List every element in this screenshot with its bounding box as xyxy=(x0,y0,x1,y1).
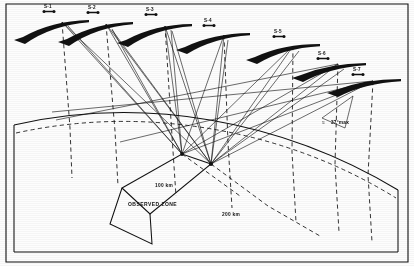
satellite-tick-cap-left-sat-1 xyxy=(43,10,46,13)
max-angle-label: 37°max xyxy=(331,120,349,125)
satellite-tick-cap-right-sat-7 xyxy=(362,73,365,76)
range-outer-label: 200 km xyxy=(222,212,240,217)
satellite-label-sat-4: S-4 xyxy=(204,18,212,23)
satellite-label-sat-2: S-2 xyxy=(88,5,96,10)
satellite-label-sat-5: S-5 xyxy=(274,29,282,34)
zone-far-edge xyxy=(211,164,320,236)
satellite-sat-3: S-3 xyxy=(117,7,192,47)
station-a-node xyxy=(180,152,184,156)
satellite-sat-4: S-4 xyxy=(176,18,250,54)
satellite-tick-cap-left-sat-6 xyxy=(317,57,320,60)
figure-root: S-1S-2S-3S-4S-5S-6S-7 OBSERVED ZONE 100 … xyxy=(0,0,414,266)
satellite-geometry-diagram: S-1S-2S-3S-4S-5S-6S-7 OBSERVED ZONE 100 … xyxy=(0,0,414,266)
satellite-tick-cap-left-sat-7 xyxy=(352,73,355,76)
satellite-sat-5: S-5 xyxy=(246,29,320,64)
nadir-line-1 xyxy=(62,22,72,178)
satellite-tick-cap-right-sat-2 xyxy=(97,11,100,14)
satellite-tick-cap-left-sat-2 xyxy=(87,11,90,14)
satellite-label-sat-6: S-6 xyxy=(318,51,326,56)
satellite-body-sat-4 xyxy=(176,33,250,54)
satellite-label-sat-7: S-7 xyxy=(353,67,361,72)
satellite-tick-cap-left-sat-5 xyxy=(273,35,276,38)
max-angle-prefix: ≈ xyxy=(322,120,325,125)
satellite-tick-cap-right-sat-6 xyxy=(327,57,330,60)
satellite-tick-cap-right-sat-5 xyxy=(283,35,286,38)
satellite-body-sat-5 xyxy=(246,44,320,64)
range-inner-label: 100 km xyxy=(155,183,173,188)
satellite-sat-2: S-2 xyxy=(58,5,133,46)
zone-side-edge xyxy=(182,154,240,196)
nadir-line-3 xyxy=(165,26,176,196)
nadir-line-2 xyxy=(106,24,118,186)
earth-block xyxy=(14,113,398,252)
observed-zone-patch xyxy=(110,154,320,244)
satellite-tick-cap-right-sat-1 xyxy=(53,10,56,13)
nadir-dashed-lines xyxy=(62,22,373,242)
station-b-node xyxy=(209,162,213,166)
satellite-label-sat-3: S-3 xyxy=(146,7,154,12)
earth-inner-arc xyxy=(16,121,396,198)
satellite-tick-cap-right-sat-4 xyxy=(213,24,216,27)
observed-zone-label: OBSERVED ZONE xyxy=(128,201,177,207)
satellite-body-sat-3 xyxy=(117,24,192,47)
nadir-line-7 xyxy=(368,81,373,242)
satellite-layer: S-1S-2S-3S-4S-5S-6S-7 xyxy=(14,4,401,97)
satellite-body-sat-1 xyxy=(14,20,89,44)
satellite-label-sat-1: S-1 xyxy=(44,4,52,9)
satellite-tick-cap-left-sat-3 xyxy=(145,13,148,16)
satellite-tick-cap-left-sat-4 xyxy=(203,24,206,27)
ray-fan xyxy=(52,22,373,164)
satellite-tick-cap-right-sat-3 xyxy=(155,13,158,16)
